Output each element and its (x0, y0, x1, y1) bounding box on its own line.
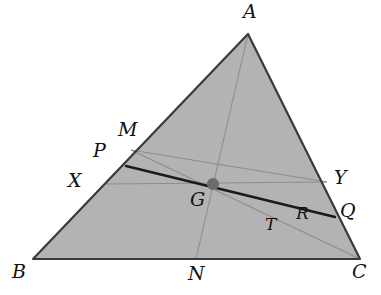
point-label-r: R (296, 205, 309, 222)
point-label-t: T (265, 216, 276, 233)
point-label-q: Q (340, 201, 356, 220)
point-label-g: G (190, 190, 205, 209)
point-label-m: M (118, 120, 137, 139)
point-label-n: N (188, 264, 205, 283)
point-label-p: P (93, 141, 106, 160)
triangle-abc-fill (33, 34, 360, 259)
vertex-label-b: B (12, 262, 26, 281)
point-label-y: Y (334, 168, 347, 187)
vertex-label-a: A (243, 2, 257, 21)
diagram-canvas (0, 0, 381, 295)
point-label-x: X (68, 171, 82, 190)
vertex-label-c: C (352, 262, 367, 281)
point-g-centroid-dot (207, 178, 219, 190)
geometry-figure: A B C M N P Q R T X Y G (0, 0, 381, 295)
